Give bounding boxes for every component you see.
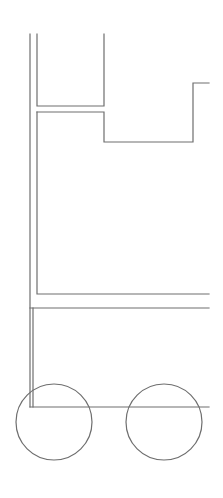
cart-line-drawing	[0, 0, 223, 498]
front-wheel	[16, 384, 92, 460]
body-outline	[37, 112, 209, 294]
cart-diagram	[0, 0, 223, 498]
rear-wheel	[126, 384, 202, 460]
body-upper-step-outline	[37, 83, 209, 142]
upper-compartment-outline	[37, 34, 104, 106]
